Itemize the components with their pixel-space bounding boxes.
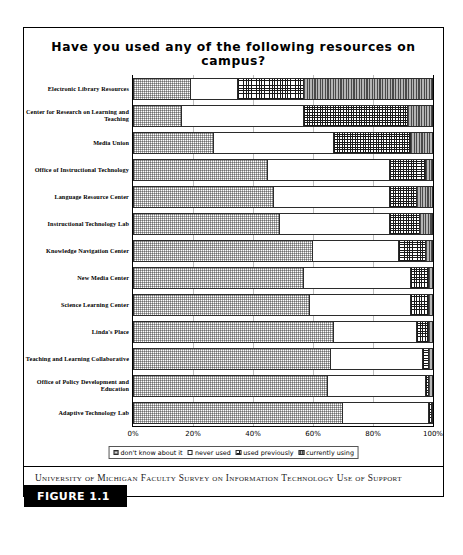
bar-segment	[429, 322, 432, 342]
legend-swatch	[236, 450, 242, 456]
plot-right-border	[433, 75, 434, 426]
bar-segment	[134, 376, 328, 396]
bar-segment	[134, 187, 274, 207]
bar-row	[133, 78, 433, 100]
bar-segment	[134, 214, 280, 234]
x-tick-label: 40%	[245, 430, 261, 438]
x-tick-label: 60%	[305, 430, 321, 438]
bar-row	[133, 105, 433, 127]
bar-row	[133, 267, 433, 289]
category-label: Center for Research on Learning and Teac…	[25, 108, 129, 123]
bar-segment	[426, 241, 432, 261]
category-label: Language Resource Center	[25, 193, 129, 200]
bar-segment	[429, 349, 432, 369]
bar-segment	[274, 187, 390, 207]
bar-row	[133, 186, 433, 208]
bar-segment	[304, 268, 411, 288]
figure-frame: Have you used any of the following resou…	[23, 27, 444, 497]
plot-area	[133, 75, 433, 426]
bar-segment	[417, 322, 429, 342]
category-axis-labels: Electronic Library ResourcesCenter for R…	[24, 75, 129, 426]
category-label: Office of Policy Development and Educati…	[25, 378, 129, 393]
bar-segment	[214, 133, 333, 153]
category-label: Instructional Technology Lab	[25, 220, 129, 227]
legend-item: don't know about it	[113, 449, 182, 457]
bar-segment	[429, 376, 432, 396]
x-tick-label: 100%	[423, 430, 443, 438]
bar-segment	[390, 214, 420, 234]
bar-segment	[191, 79, 239, 99]
bar-segment	[134, 133, 214, 153]
bar-row	[133, 321, 433, 343]
bar-segment	[304, 79, 432, 99]
bar-segment	[134, 241, 313, 261]
bar-row	[133, 294, 433, 316]
bar-segment	[280, 214, 390, 234]
bar-segment	[134, 106, 182, 126]
legend-item: currently using	[299, 449, 354, 457]
bar-segment	[429, 403, 432, 423]
category-label: Science Learning Center	[25, 301, 129, 308]
bar-row	[133, 159, 433, 181]
x-axis-ticks: 0%20%40%60%80%100%	[133, 430, 433, 442]
bar-segment	[328, 376, 426, 396]
bar-segment	[134, 403, 343, 423]
bar-segment	[134, 322, 334, 342]
bar-segment	[399, 241, 426, 261]
category-label: Electronic Library Resources	[25, 85, 129, 92]
bar-row	[133, 240, 433, 262]
chart-title: Have you used any of the following resou…	[24, 40, 443, 68]
bar-segment	[334, 133, 411, 153]
legend-swatch	[188, 450, 194, 456]
legend-swatch	[113, 450, 119, 456]
legend-label: never used	[195, 449, 231, 457]
bar-row	[133, 132, 433, 154]
bar-segment	[310, 295, 411, 315]
legend-label: currently using	[306, 449, 354, 457]
bar-segment	[420, 214, 432, 234]
category-label: Teaching and Learning Collaborative	[25, 355, 129, 362]
bar-segment	[429, 268, 432, 288]
category-label: Knowledge Navigation Center	[25, 247, 129, 254]
bar-segment	[429, 295, 432, 315]
bar-segment	[334, 322, 417, 342]
legend-item: never used	[188, 449, 231, 457]
bar-segment	[343, 403, 429, 423]
category-label: Adaptive Technology Lab	[25, 409, 129, 416]
bar-segment	[411, 133, 432, 153]
bar-segment	[390, 187, 417, 207]
legend-swatch	[299, 450, 305, 456]
bar-segment	[304, 106, 408, 126]
bar-row	[133, 375, 433, 397]
bar-segment	[417, 187, 432, 207]
bar-segment	[134, 79, 191, 99]
x-tick-label: 0%	[127, 430, 138, 438]
bar-segment	[238, 79, 304, 99]
bar-segment	[134, 349, 331, 369]
bar-segment	[134, 295, 310, 315]
chart-legend: don't know about itnever usedused previo…	[108, 446, 359, 459]
bar-row	[133, 348, 433, 370]
bar-segment	[134, 268, 304, 288]
x-axis-line	[132, 426, 434, 427]
bar-segment	[182, 106, 304, 126]
bar-segment	[313, 241, 399, 261]
bar-row	[133, 402, 433, 424]
legend-label: don't know about it	[121, 449, 183, 457]
x-tick-label: 20%	[185, 430, 201, 438]
bar-segment	[331, 349, 423, 369]
category-label: New Media Center	[25, 274, 129, 281]
bar-segment	[408, 106, 432, 126]
category-label: Linda's Place	[25, 328, 129, 335]
bar-segment	[268, 160, 390, 180]
legend-label: used previously	[243, 449, 293, 457]
bar-segment	[390, 160, 426, 180]
bar-segment	[411, 295, 429, 315]
bar-row	[133, 213, 433, 235]
legend-item: used previously	[236, 449, 294, 457]
x-tick-label: 80%	[365, 430, 381, 438]
bar-segment	[134, 160, 268, 180]
category-label: Office of Instructional Technology	[25, 166, 129, 173]
bar-segment	[426, 160, 432, 180]
bar-segment	[411, 268, 429, 288]
